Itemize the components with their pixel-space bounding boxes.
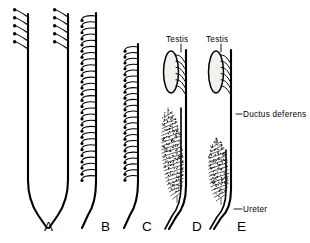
stipple-dot [173,155,174,156]
stipple-dot [170,174,171,175]
stipple-dot [166,149,167,150]
nephrostome-dot [123,161,126,164]
stipple-dot [173,140,174,141]
stipple-dot [212,181,213,182]
stipple-dot [210,153,211,154]
stipple-dot [215,178,216,179]
stipple-dot [168,175,169,176]
stipple-dot [176,149,177,150]
stipple-dot [219,190,220,191]
stipple-dot [210,149,211,150]
stipple-dot [221,189,222,190]
stipple-dot [176,188,177,189]
stipple-dot [225,191,226,192]
stipple-dot [180,154,181,155]
stipple-dot [174,123,175,124]
stipple-dot [173,141,174,142]
stipple-dot [216,186,217,187]
stipple-dot [214,170,215,171]
stipple-dot [169,136,170,137]
duct-tubule [125,52,138,57]
stipple-dot [214,149,215,150]
duct-tubule [125,94,138,99]
stipple-dot [178,185,179,186]
stipple-dot [215,173,216,174]
stipple-dot [222,191,223,192]
stipple-dot [164,115,165,116]
stipple-dot [164,112,165,113]
stipple-dot [173,147,174,148]
nephrostome-dot [123,56,126,59]
stipple-dot [214,189,215,190]
stipple-dot [179,147,180,148]
stipple-dot [175,144,176,145]
stipple-dot [172,130,173,131]
duct-tubule [82,28,96,33]
stipple-dot [217,187,218,188]
stipple-dot [221,148,222,149]
stipple-dot [177,159,178,160]
callout-label-ductus-deferens: Ductus deferens [243,110,306,119]
stipple-dot [173,185,174,186]
stipple-dot [169,131,170,132]
panel-c-letter: C [142,219,152,234]
nephrostome-dot [123,67,126,70]
stipple-dot [170,184,171,185]
stipple-dot [167,121,168,122]
stipple-dot [168,168,169,169]
stipple-dot [219,191,220,192]
panel-a-tubules-right [53,8,68,49]
stipple-dot [176,168,177,169]
stipple-dot [222,182,223,183]
duct-tubule [82,40,96,45]
nephrostome-dot [80,136,83,139]
urogenital-duct-diagram: TestisTestisDuctus deferensUreter ABCDE [0,0,310,243]
stipple-dot [217,171,218,172]
stipple-dot [171,141,172,142]
stipple-dot [214,174,215,175]
callout-label-ureter: Ureter [243,205,267,214]
stipple-dot [167,172,168,173]
stipple-dot [165,154,166,155]
nephrostome-dot [80,179,83,182]
stipple-dot [177,127,178,128]
stipple-dot [166,148,167,149]
duct-tubule [125,58,138,63]
panel-a-duct-right [49,14,68,228]
stipple-dot [214,182,215,183]
stipple-dot [225,185,226,186]
nephrostome-dot [123,61,126,64]
duct-tubule [82,22,96,27]
stipple-dot [213,173,214,174]
duct-tubule [125,140,138,145]
duct-tubule [125,129,138,134]
stipple-dot [173,164,174,165]
panel-e-letter: E [237,219,246,234]
nephrostome-dot [80,130,83,133]
stipple-dot [222,161,223,162]
stipple-dot [168,133,169,134]
stipple-dot [170,112,171,113]
stipple-dot [180,168,181,169]
stipple-dot [164,150,165,151]
stipple-dot [170,171,171,172]
stipple-dot [182,162,183,163]
stipple-dot [171,117,172,118]
stipple-dot [172,127,173,128]
stipple-dot [176,162,177,163]
stipple-dot [225,176,226,177]
stipple-dot [175,119,176,120]
stipple-dot [172,123,173,124]
stipple-dot [209,154,210,155]
stipple-dot [209,160,210,161]
duct-tubule [82,102,96,107]
panel-b-tubules [80,16,96,182]
duct-tubule [82,34,96,39]
nephrostome-dot [80,173,83,176]
nephrostome-dot [80,56,83,59]
nephrostome-dot [80,74,83,77]
stipple-dot [217,176,218,177]
stipple-dot [172,181,173,182]
nephrostome-dot [123,50,126,53]
nephrostome-dot [123,79,126,82]
